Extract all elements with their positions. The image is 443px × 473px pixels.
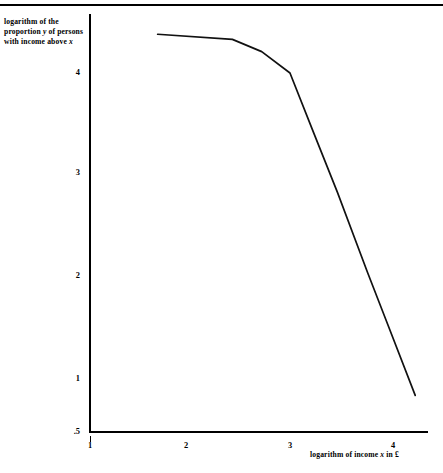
x-axis-title-pre: logarithm of income — [310, 450, 380, 459]
x-axis-title: logarithm of income x in £ — [310, 450, 399, 460]
x-axis-title-post: in £ — [384, 450, 399, 459]
plot-curve-layer — [0, 0, 443, 473]
data-series-line — [158, 34, 416, 395]
figure-page: logarithm of the proportion y of persons… — [0, 0, 443, 473]
